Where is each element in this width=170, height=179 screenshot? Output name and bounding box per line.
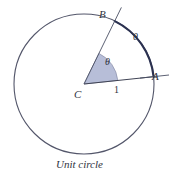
highlighted-arc-ab <box>115 21 154 77</box>
figure-caption: Unit circle <box>56 159 103 170</box>
shaded-sector-theta <box>84 53 118 84</box>
label-central-angle-theta: θ <box>105 57 110 67</box>
ray-through-b <box>115 7 122 21</box>
unit-circle-svg <box>0 0 170 179</box>
label-point-b: B <box>99 9 106 20</box>
label-center-c: C <box>74 89 81 100</box>
label-arc-length-theta: θ <box>133 32 138 42</box>
unit-circle-figure: B θ A θ 1 C Unit circle <box>0 0 170 179</box>
label-point-a: A <box>152 71 159 82</box>
label-radius-value: 1 <box>114 85 119 95</box>
